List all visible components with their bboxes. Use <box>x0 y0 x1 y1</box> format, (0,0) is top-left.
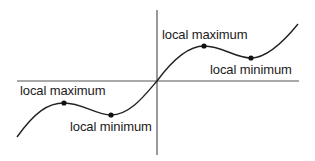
function-graph-diagram: local maximum local minimum local maximu… <box>0 0 315 161</box>
graph-canvas <box>0 0 315 161</box>
right-local-minimum-label: local minimum <box>210 63 292 76</box>
right-local-maximum-point <box>201 43 206 48</box>
left-local-maximum-label: local maximum <box>20 84 105 97</box>
left-local-maximum-point <box>61 100 66 105</box>
left-local-minimum-label: local minimum <box>70 120 152 133</box>
right-local-maximum-label: local maximum <box>162 28 247 41</box>
left-local-minimum-point <box>108 112 113 117</box>
right-local-minimum-point <box>248 55 253 60</box>
